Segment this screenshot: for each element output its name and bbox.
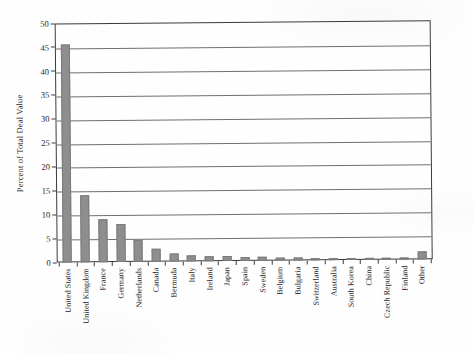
- y-tick-label: 15: [42, 187, 51, 196]
- x-tick-mark: [413, 259, 414, 263]
- x-tick-slot: [183, 261, 201, 266]
- bar-slot: [358, 21, 378, 260]
- x-tick-mark: [236, 261, 237, 265]
- x-tick-mark: [395, 260, 396, 264]
- x-tick-slot: [59, 262, 77, 267]
- bar-slot: [198, 22, 218, 261]
- x-tick-mark: [200, 261, 201, 265]
- x-axis-labels: United StatesUnited KingdomFranceGermany…: [57, 265, 434, 352]
- x-tick-slot: [342, 260, 360, 265]
- x-tick-slot: [236, 261, 254, 266]
- y-tick: 35: [41, 89, 56, 101]
- x-tick-mark: [254, 261, 255, 265]
- y-tick: 50: [40, 18, 55, 30]
- x-label-slot: Netherlands: [130, 268, 148, 352]
- bar-slot: [252, 22, 272, 261]
- x-label-slot: United Kingdom: [77, 268, 95, 352]
- bar-chart-figure: Percent of Total Deal Value 504540353025…: [0, 0, 473, 354]
- x-label-slot: South Korea: [342, 266, 360, 350]
- x-tick-slot: [413, 259, 431, 264]
- y-tick: 45: [40, 41, 55, 53]
- x-tick-label: Spain: [240, 267, 249, 286]
- x-tick-label: Canada: [152, 268, 161, 293]
- bar-slot: [181, 22, 201, 261]
- y-tick-label: 50: [40, 19, 49, 28]
- bar: [80, 195, 90, 262]
- x-tick-mark: [130, 262, 131, 266]
- x-tick-label: Other: [418, 265, 427, 284]
- bar: [169, 254, 178, 262]
- x-tick-slot: [378, 260, 396, 265]
- y-tick-label: 40: [41, 67, 50, 76]
- x-tick-slot: [147, 262, 165, 267]
- x-label-slot: Spain: [236, 267, 254, 351]
- x-tick-label: Germany: [116, 268, 125, 299]
- y-tick: 0: [46, 257, 56, 269]
- bar-slot: [110, 23, 130, 262]
- x-tick-slot: [395, 259, 413, 264]
- x-tick-label: United Kingdom: [81, 268, 90, 323]
- bar-slot: [74, 23, 94, 262]
- y-tick-label: 10: [42, 211, 51, 220]
- bar: [61, 44, 72, 263]
- x-tick-slot: [130, 262, 148, 267]
- bar-slot: [376, 21, 396, 260]
- x-tick-slot: [165, 261, 183, 266]
- x-label-slot: Czech Republic: [378, 266, 396, 350]
- x-label-slot: France: [94, 268, 112, 352]
- y-tick-label: 30: [41, 115, 50, 124]
- x-tick-slot: [218, 261, 236, 266]
- x-tick-slot: [200, 261, 218, 266]
- x-tick-slot: [360, 260, 378, 265]
- x-tick-label: Switzerland: [311, 266, 320, 305]
- y-tick: 5: [46, 233, 56, 245]
- x-tick-slot: [94, 262, 112, 267]
- x-label-slot: Belgium: [271, 267, 289, 351]
- bar-slot: [92, 23, 112, 262]
- x-label-slot: Sweden: [254, 267, 272, 351]
- x-tick-label: Belgium: [276, 267, 285, 295]
- x-tick-label: China: [364, 266, 373, 286]
- bar-slot: [234, 22, 254, 261]
- x-tick-label: Bulgaria: [293, 266, 302, 294]
- x-tick-slot: [76, 262, 94, 267]
- x-tick-mark: [112, 262, 113, 266]
- bar-slot: [216, 22, 236, 261]
- x-tick-label: Czech Republic: [382, 266, 391, 318]
- y-tick: 10: [42, 209, 57, 221]
- x-tick-mark: [378, 260, 379, 264]
- x-label-slot: Other: [413, 265, 431, 349]
- x-tick-slot: [325, 260, 343, 265]
- y-tick: 30: [41, 113, 56, 125]
- bar-slot: [128, 23, 148, 262]
- x-tick-mark: [431, 259, 432, 263]
- x-tick-slot: [254, 261, 272, 266]
- bar-slot: [322, 21, 342, 260]
- bar-slot: [340, 21, 360, 260]
- bar: [134, 240, 143, 262]
- x-tick-label: Australia: [329, 266, 338, 296]
- y-tick: 25: [41, 137, 56, 149]
- bar-slot: [393, 20, 413, 259]
- x-tick-label: France: [99, 268, 108, 290]
- x-label-slot: China: [360, 266, 378, 350]
- x-tick-mark: [342, 260, 343, 264]
- x-tick-label: Japan: [223, 267, 232, 286]
- bar-slot: [287, 21, 307, 260]
- x-tick-mark: [325, 260, 326, 264]
- x-tick-label: Finland: [400, 265, 409, 290]
- x-tick-label: Bermuda: [169, 268, 178, 298]
- bar-slot: [305, 21, 325, 260]
- x-label-slot: Japan: [218, 267, 236, 351]
- x-tick-mark: [271, 261, 272, 265]
- x-tick-mark: [165, 262, 166, 266]
- x-label-slot: Canada: [147, 268, 165, 352]
- y-tick: 15: [42, 185, 57, 197]
- y-axis-ticks: 50454035302520151050: [0, 24, 57, 263]
- x-label-slot: Australia: [325, 266, 343, 350]
- x-tick-slot: [289, 260, 307, 265]
- x-label-slot: Switzerland: [307, 266, 325, 350]
- bar-slot: [145, 23, 165, 262]
- x-tick-mark: [59, 263, 60, 267]
- x-tick-label: Sweden: [258, 267, 267, 293]
